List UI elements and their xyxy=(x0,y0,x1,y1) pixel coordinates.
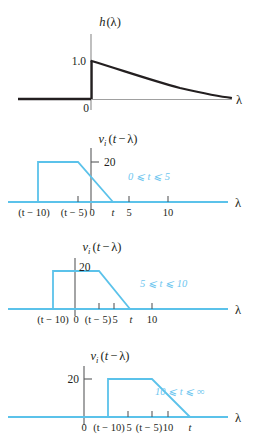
panel-case-2: vi(t−λ) 20 (t − 10) 0 (t − 5) 5 t 10 5 ⩽… xyxy=(8,240,241,326)
panel2-annotation: 0 ⩽ t ⩽ 5 xyxy=(128,171,170,182)
panel4-annotation: 10 ⩽ t ⩽ ∞ xyxy=(155,386,204,397)
panel4-xtick-t: t xyxy=(189,422,193,433)
convolution-figure: h(λ) 1.0 0 λ vi(t−λ) 20 xyxy=(0,0,264,447)
panel2-xtick-t-minus-5: (t − 5) xyxy=(61,207,88,219)
panel3-axis-label-lambda: λ xyxy=(235,303,241,317)
panel-impulse-response: h(λ) 1.0 0 λ xyxy=(18,15,242,114)
panel4-xtick-0: 0 xyxy=(81,422,86,433)
panel4-xtick-t-minus-10: (t − 10) xyxy=(93,422,125,434)
panel2-xtick-t: t xyxy=(112,207,116,218)
panel3-pulse-curve xyxy=(53,271,130,309)
panel1-curve-decay xyxy=(92,61,231,98)
panel2-xtick-0: 0 xyxy=(89,207,94,218)
panel-case-3: vi(t−λ) 20 0 (t − 10) 5 (t − 5) 10 t 10 … xyxy=(8,349,241,434)
panel3-xtick-t-minus-10: (t − 10) xyxy=(37,314,69,326)
panel4-ytick-20: 20 xyxy=(68,373,80,385)
panel2-axis-label-lambda: λ xyxy=(235,196,241,210)
panel4-title: vi(t−λ) xyxy=(91,349,130,365)
panel3-xtick-t: t xyxy=(130,314,134,325)
panel4-xtick-10: 10 xyxy=(163,422,174,433)
panel2-pulse-curve xyxy=(38,162,113,202)
panel1-ytick-1p0: 1.0 xyxy=(72,55,87,67)
panel4-axis-label-lambda: λ xyxy=(235,411,241,425)
panel1-title: h(λ) xyxy=(99,15,121,29)
panel3-annotation: 5 ⩽ t ⩽ 10 xyxy=(140,278,188,289)
panel2-xtick-10: 10 xyxy=(163,207,174,218)
panel1-xtick-0: 0 xyxy=(83,102,89,114)
panel2-xtick-t-minus-10: (t − 10) xyxy=(18,207,50,219)
figure-svg: h(λ) 1.0 0 λ vi(t−λ) 20 xyxy=(0,0,264,447)
panel2-title: vi(t−λ) xyxy=(99,132,138,148)
panel3-title: vi(t−λ) xyxy=(83,240,122,256)
panel4-xtick-t-minus-5: (t − 5) xyxy=(136,422,163,434)
panel4-xtick-5: 5 xyxy=(126,422,131,433)
panel4-pulse-curve xyxy=(108,379,190,417)
panel2-xtick-5: 5 xyxy=(126,207,131,218)
panel3-xtick-0: 0 xyxy=(73,314,78,325)
panel1-axis-label-lambda: λ xyxy=(236,93,242,107)
panel2-ytick-20: 20 xyxy=(104,156,116,168)
panel3-ytick-20: 20 xyxy=(79,261,91,273)
panel3-xtick-5: 5 xyxy=(112,314,117,325)
panel-case-1: vi(t−λ) 20 (t − 10) (t − 5) 0 t 5 10 0 ⩽… xyxy=(8,132,241,219)
panel3-xtick-t-minus-5: (t − 5) xyxy=(85,314,112,326)
panel3-xtick-10: 10 xyxy=(147,314,158,325)
